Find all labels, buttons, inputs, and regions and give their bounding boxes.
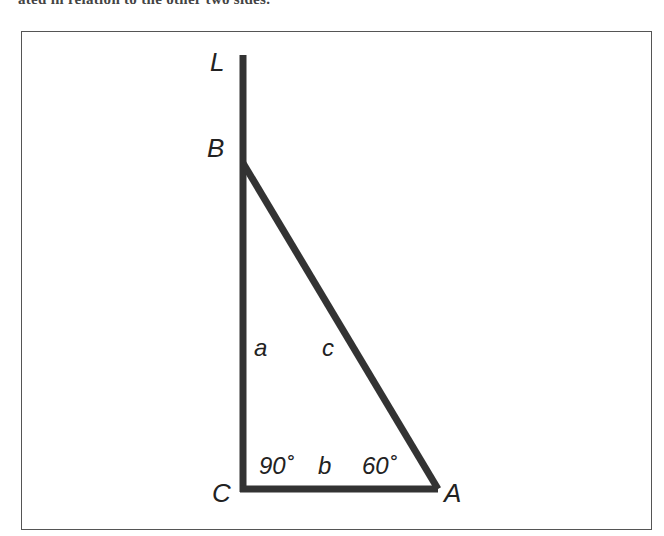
vertex-label-C: C <box>212 478 231 508</box>
vertex-label-B: B <box>207 133 224 163</box>
side-label-a: a <box>254 334 267 361</box>
side-label-c: c <box>322 334 334 361</box>
vertex-label-A: A <box>442 478 461 508</box>
angle-label-C: 90˚ <box>259 452 295 479</box>
side-label-b: b <box>318 452 331 479</box>
vertex-label-L: L <box>210 47 224 77</box>
angle-label-A: 60˚ <box>362 452 398 479</box>
right-triangle-diagram: L B C A a c b 90˚ 60˚ <box>0 0 664 536</box>
side-c-line <box>243 163 438 489</box>
